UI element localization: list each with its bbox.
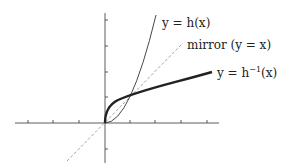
label-h: y = h(x) — [161, 16, 210, 30]
h-curve — [105, 15, 156, 123]
mirror-line — [67, 43, 183, 161]
label-h-inverse: y = h−1(x) — [216, 65, 277, 80]
label-mirror: mirror (y = x) — [187, 38, 271, 52]
h-inverse-curve — [105, 72, 212, 123]
chart: y = h(x) mirror (y = x) y = h−1(x) — [0, 0, 295, 168]
axes — [15, 13, 219, 163]
